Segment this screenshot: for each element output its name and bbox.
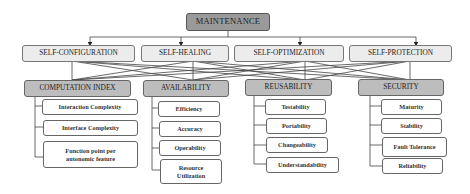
- leaf-operability: Operability: [159, 140, 221, 156]
- self-optimization-node: SELF-OPTIMIZATION: [234, 45, 344, 62]
- leaf-interface-complexity: Interface Complexity: [43, 120, 138, 136]
- self-protection-node: SELF-PROTECTION: [349, 45, 452, 62]
- availability-node: AVAILABILITY: [143, 80, 229, 97]
- reusability-label: REUSABILITY: [265, 83, 313, 91]
- leaf-portability: Portability: [266, 118, 327, 134]
- self-healing-node: SELF-HEALING: [141, 45, 229, 62]
- leaf-changeability: Changeability: [266, 137, 328, 153]
- leaf-label: Accuracy: [177, 125, 203, 132]
- leaf-resource-utilization: Resource Utilization: [160, 159, 222, 184]
- leaf-label: Maturity: [399, 103, 423, 110]
- leaf-testability: Testability: [265, 99, 326, 115]
- leaf-label: Stability: [400, 122, 423, 129]
- leaf-label: Function point per autonomic feature: [61, 147, 121, 161]
- maintenance-node: MAINTENANCE: [186, 13, 270, 31]
- self-configuration-node: SELF-CONFIGURATION: [22, 45, 135, 62]
- leaf-label: Operability: [174, 144, 205, 151]
- leaf-label: Resource Utilization: [169, 164, 213, 178]
- leaf-interaction-complexity: Interaction Complexity: [42, 99, 138, 115]
- leaf-label: Interface Complexity: [62, 124, 119, 131]
- leaf-reliability: Reliability: [382, 158, 443, 174]
- leaf-understandability: Understandability: [266, 157, 339, 173]
- leaf-label: Efficiency: [176, 105, 203, 112]
- leaf-label: Fault Tolerance: [393, 143, 435, 150]
- reusability-node: REUSABILITY: [245, 79, 332, 96]
- maintenance-label: MAINTENANCE: [196, 17, 261, 27]
- self-protection-label: SELF-PROTECTION: [368, 49, 433, 57]
- leaf-label: Testability: [281, 103, 309, 110]
- computation-index-node: COMPUTATION INDEX: [24, 80, 131, 97]
- leaf-label: Portability: [282, 122, 311, 129]
- leaf-maturity: Maturity: [381, 99, 442, 115]
- self-configuration-label: SELF-CONFIGURATION: [39, 49, 118, 57]
- leaf-accuracy: Accuracy: [159, 121, 221, 137]
- self-healing-label: SELF-HEALING: [159, 49, 211, 57]
- leaf-function-point: Function point per autonomic feature: [43, 141, 138, 168]
- leaf-stability: Stability: [381, 118, 442, 134]
- computation-index-label: COMPUTATION INDEX: [39, 84, 115, 92]
- security-label: SECURITY: [383, 83, 419, 91]
- leaf-label: Interaction Complexity: [59, 103, 122, 110]
- leaf-fault-tolerance: Fault Tolerance: [382, 137, 447, 157]
- leaf-label: Reliability: [399, 162, 427, 169]
- self-optimization-label: SELF-OPTIMIZATION: [254, 49, 325, 57]
- leaf-efficiency: Efficiency: [158, 101, 220, 117]
- security-node: SECURITY: [358, 79, 444, 96]
- availability-label: AVAILABILITY: [161, 84, 211, 92]
- leaf-label: Changeability: [278, 141, 316, 148]
- leaf-label: Understandability: [278, 161, 327, 168]
